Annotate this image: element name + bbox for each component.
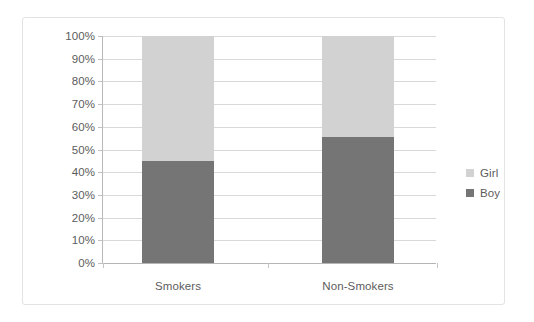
bar-stack[interactable] <box>142 36 214 263</box>
chart-legend: GirlBoy <box>466 163 521 203</box>
x-axis-label-smokers: Smokers <box>155 280 201 292</box>
legend-item-girl[interactable]: Girl <box>466 163 521 183</box>
x-axis-label-non-smokers: Non-Smokers <box>322 280 393 292</box>
y-axis-label: 10% <box>72 234 95 246</box>
y-axis-tick <box>98 150 103 151</box>
y-axis-tick <box>98 59 103 60</box>
x-axis-tick <box>437 263 438 268</box>
x-axis-tick <box>268 263 269 268</box>
gridline <box>103 263 436 264</box>
bar-segment-girl[interactable] <box>322 36 394 137</box>
y-axis-label: 70% <box>72 98 95 110</box>
bar-segment-boy[interactable] <box>322 137 394 263</box>
y-axis-label: 0% <box>78 257 95 269</box>
y-axis-tick <box>98 36 103 37</box>
y-axis-label: 50% <box>72 144 95 156</box>
y-axis-label: 40% <box>72 166 95 178</box>
y-axis-label: 90% <box>72 53 95 65</box>
y-axis-tick <box>98 240 103 241</box>
bar-stack[interactable] <box>322 36 394 263</box>
bar-segment-boy[interactable] <box>142 161 214 263</box>
y-axis-tick <box>98 172 103 173</box>
legend-label: Boy <box>480 187 500 199</box>
y-axis-tick <box>98 127 103 128</box>
y-axis-tick <box>98 81 103 82</box>
y-axis-label: 100% <box>65 30 95 42</box>
legend-label: Girl <box>480 167 498 179</box>
y-axis-tick <box>98 104 103 105</box>
y-axis-label: 60% <box>72 121 95 133</box>
legend-swatch-boy-icon <box>466 189 474 197</box>
y-axis-label: 20% <box>72 212 95 224</box>
x-axis-tick <box>103 263 104 268</box>
y-axis-label: 30% <box>72 189 95 201</box>
y-axis-tick <box>98 195 103 196</box>
y-axis-label: 80% <box>72 75 95 87</box>
y-axis-tick <box>98 218 103 219</box>
plot-area: 100%90%80%70%60%50%40%30%20%10%0%Smokers… <box>102 36 436 263</box>
legend-swatch-girl-icon <box>466 169 474 177</box>
bar-segment-girl[interactable] <box>142 36 214 161</box>
chart-frame: 100%90%80%70%60%50%40%30%20%10%0%Smokers… <box>22 17 505 305</box>
legend-item-boy[interactable]: Boy <box>466 183 521 203</box>
